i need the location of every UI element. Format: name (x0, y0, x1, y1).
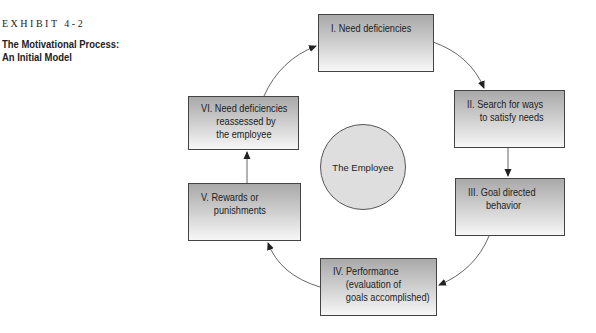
step-3-goal-directed-behavior: III. Goal directed behavior (455, 178, 565, 236)
step-5-rewards-or-punishments: V. Rewards or punishments (188, 183, 301, 241)
center-label: The Employee (332, 162, 393, 173)
step-5-text: V. Rewards or punishments (201, 191, 287, 217)
center-employee-circle: The Employee (320, 124, 406, 210)
arrow-6-to-1 (264, 46, 316, 96)
step-2-text: II. Search for ways to satisfy needs (467, 98, 551, 124)
arrow-1-to-2 (433, 42, 484, 88)
connector-arrows (0, 0, 596, 333)
step-2-search-for-ways: II. Search for ways to satisfy needs (454, 90, 565, 148)
step-6-need-deficiencies-reassessed: VI. Need deficiencies reassessed by the … (188, 96, 299, 150)
arrow-4-to-5 (268, 243, 320, 287)
step-1-text: I. Need deficiencies (331, 22, 419, 35)
diagram-canvas: EXHIBIT 4-2 The Motivational Process: An… (0, 0, 596, 333)
step-4-performance: IV. Performance (evaluation of goals acc… (320, 258, 437, 316)
step-4-text: IV. Performance (evaluation of goals acc… (333, 265, 422, 304)
arrow-3-to-4 (439, 236, 489, 285)
step-6-text: VI. Need deficiencies reassessed by the … (201, 102, 285, 141)
step-3-text: III. Goal directed behavior (468, 186, 551, 212)
step-1-need-deficiencies: I. Need deficiencies (318, 14, 434, 72)
